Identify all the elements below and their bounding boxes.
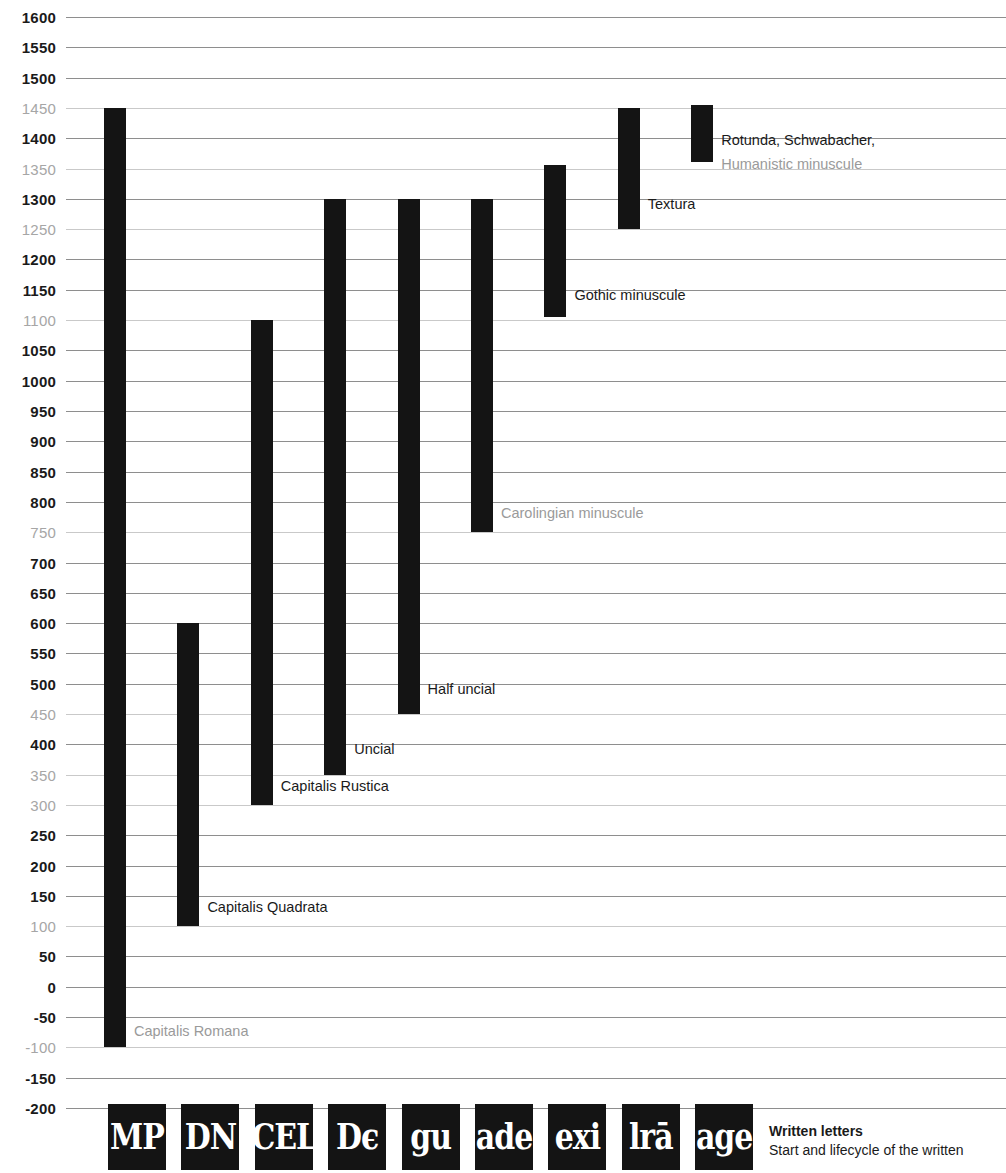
- gridline-1350: [66, 169, 1006, 170]
- y-tick-label: 0: [0, 980, 56, 995]
- gridline-500: [66, 684, 1006, 685]
- bar-label: Gothic minuscule: [574, 288, 685, 303]
- y-tick-label: 650: [0, 586, 56, 601]
- bar-label: Textura: [648, 197, 696, 212]
- y-tick-label: 800: [0, 495, 56, 510]
- y-tick-label: 600: [0, 616, 56, 631]
- gridline-1500: [66, 78, 1006, 79]
- specimen-glyphs: age: [696, 1120, 753, 1155]
- y-tick-label: -100: [0, 1040, 56, 1055]
- gridline-350: [66, 775, 1006, 776]
- y-tick-label: 500: [0, 677, 56, 692]
- gridline-1550: [66, 47, 1006, 48]
- y-tick-label: 450: [0, 707, 56, 722]
- y-tick-label: 950: [0, 404, 56, 419]
- y-tick-label: 250: [0, 828, 56, 843]
- uncial-specimen: Dϵ: [328, 1104, 386, 1170]
- y-tick-label: 900: [0, 434, 56, 449]
- y-tick-label: 300: [0, 798, 56, 813]
- gridline-850: [66, 472, 1006, 473]
- gridline-700: [66, 563, 1006, 564]
- y-tick-label: 200: [0, 859, 56, 874]
- gridline-250: [66, 835, 1006, 836]
- half-uncial-specimen: gu: [402, 1104, 460, 1170]
- gridline-550: [66, 653, 1006, 654]
- y-tick-label: 100: [0, 919, 56, 934]
- bar-label: Carolingian minuscule: [501, 506, 644, 521]
- y-tick-label: 1550: [0, 40, 56, 55]
- gridline-1300: [66, 199, 1006, 200]
- gridline-300: [66, 805, 1006, 806]
- bar-label: Capitalis Quadrata: [207, 900, 327, 915]
- gridline-1250: [66, 229, 1006, 230]
- specimen-glyphs: Dϵ: [336, 1120, 378, 1155]
- gridline--50: [66, 1017, 1006, 1018]
- y-tick-label: -200: [0, 1101, 56, 1116]
- capitalis-quadrata-specimen: DN: [181, 1104, 239, 1170]
- gridline--100: [66, 1047, 1006, 1048]
- caption-title: Written letters: [769, 1122, 964, 1141]
- bar-capitalis-romana: [104, 108, 126, 1047]
- y-tick-label: 750: [0, 525, 56, 540]
- gridline-600: [66, 623, 1006, 624]
- carolingian-specimen: ade: [475, 1104, 533, 1170]
- gridline-1450: [66, 108, 1006, 109]
- y-tick-label: 1600: [0, 10, 56, 25]
- y-tick-label: 1100: [0, 313, 56, 328]
- gridline-750: [66, 532, 1006, 533]
- y-tick-label: 1300: [0, 192, 56, 207]
- gridline-450: [66, 714, 1006, 715]
- bar-textura: [618, 108, 640, 229]
- bar-capitalis-quadrata: [177, 623, 199, 926]
- bar-label: Capitalis Rustica: [281, 779, 389, 794]
- gridline-150: [66, 896, 1006, 897]
- gridline-900: [66, 441, 1006, 442]
- y-tick-label: 50: [0, 949, 56, 964]
- specimen-glyphs: DN: [185, 1120, 236, 1155]
- y-tick-label: 850: [0, 465, 56, 480]
- bar-label: Humanistic minuscule: [721, 157, 862, 172]
- y-tick-label: 700: [0, 556, 56, 571]
- gridline-1000: [66, 381, 1006, 382]
- gridline-800: [66, 502, 1006, 503]
- specimen-glyphs: exi: [555, 1120, 600, 1155]
- gridline-650: [66, 593, 1006, 594]
- bar-carolingian-minuscule: [471, 199, 493, 532]
- gridline-1050: [66, 350, 1006, 351]
- gridline-1150: [66, 290, 1006, 291]
- gridline-100: [66, 926, 1006, 927]
- y-tick-label: -50: [0, 1010, 56, 1025]
- gridline-0: [66, 987, 1006, 988]
- specimen-glyphs: gu: [410, 1120, 451, 1155]
- y-tick-label: 1250: [0, 222, 56, 237]
- bar-capitalis-rustica: [251, 320, 273, 805]
- textura-specimen: lrā: [622, 1104, 680, 1170]
- y-tick-label: 400: [0, 737, 56, 752]
- chart-caption: Written letters Start and lifecycle of t…: [769, 1122, 964, 1160]
- y-tick-label: 1400: [0, 131, 56, 146]
- y-tick-label: 1050: [0, 343, 56, 358]
- y-tick-label: 1350: [0, 162, 56, 177]
- y-tick-label: -150: [0, 1071, 56, 1086]
- specimen-glyphs: MP: [110, 1120, 164, 1155]
- bar-gothic-minuscule: [544, 165, 566, 317]
- gothic-minuscule-specimen: exi: [548, 1104, 606, 1170]
- specimen-glyphs: lrā: [629, 1120, 673, 1155]
- y-tick-label: 150: [0, 889, 56, 904]
- y-tick-label: 1000: [0, 374, 56, 389]
- y-tick-label: 1150: [0, 283, 56, 298]
- capitalis-rustica-specimen: CEL: [255, 1104, 313, 1170]
- gridline-1200: [66, 259, 1006, 260]
- bar-rotunda-schwabacher: [691, 105, 713, 163]
- gridline-200: [66, 866, 1006, 867]
- caption-subtitle: Start and lifecycle of the written: [769, 1141, 964, 1160]
- bar-label: Half uncial: [428, 682, 496, 697]
- capitalis-romana-specimen: MP: [108, 1104, 166, 1170]
- gridline--150: [66, 1078, 1006, 1079]
- bar-label: Uncial: [354, 742, 394, 757]
- bar-label: Capitalis Romana: [134, 1024, 248, 1039]
- y-tick-label: 1500: [0, 71, 56, 86]
- gridline-400: [66, 744, 1006, 745]
- bar-half-uncial: [398, 199, 420, 714]
- gridline-50: [66, 956, 1006, 957]
